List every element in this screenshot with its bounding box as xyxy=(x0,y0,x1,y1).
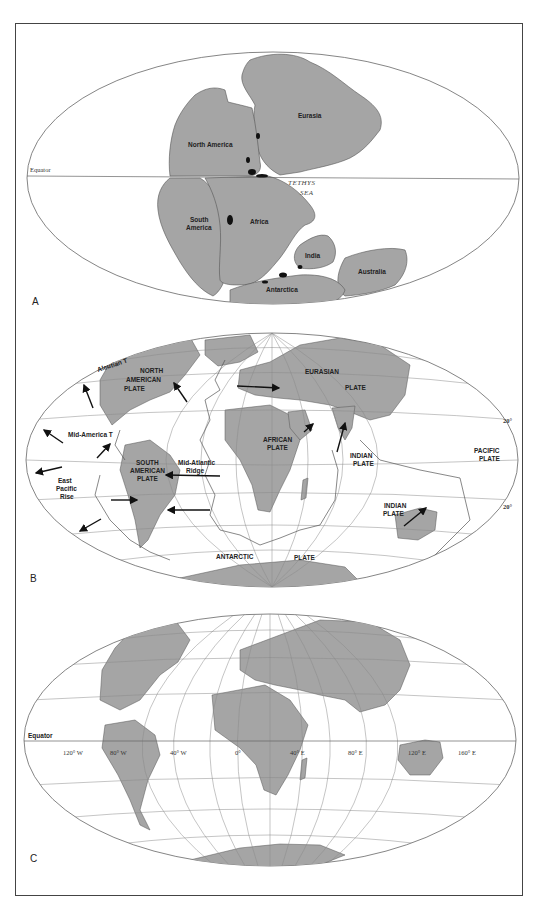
label-south-american-plate-2: AMERICAN xyxy=(130,467,165,474)
label-antarctic-plate-2: PLATE xyxy=(294,554,315,561)
label-indian-plate-1: INDIAN xyxy=(350,452,373,459)
label-east-pacific-2: Pacific xyxy=(56,485,77,492)
label-antarctica: Antarctica xyxy=(266,286,298,293)
equator-label-a: Equator xyxy=(30,166,51,173)
label-australia: Australia xyxy=(358,268,386,275)
label-latitude-20s: 20° xyxy=(503,503,513,510)
label-pacific-plate-2: PLATE xyxy=(479,455,500,462)
longitude-label: 80° W xyxy=(110,749,128,756)
label-eurasia: Eurasia xyxy=(298,112,322,119)
label-african-plate-1: AFRICAN xyxy=(263,436,293,443)
label-india: India xyxy=(305,252,321,259)
label-north-america: North America xyxy=(188,141,233,148)
label-eurasian-plate-1: EURASIAN xyxy=(305,368,339,375)
equator-label-c: Equator xyxy=(28,732,53,740)
label-latitude-20n: 20° xyxy=(503,417,513,424)
tethys-sea-label-line2: SEA xyxy=(300,189,314,197)
longitude-label: 160° E xyxy=(458,749,476,756)
label-south-american-plate-3: PLATE xyxy=(137,475,158,482)
label-eurasian-plate-2: PLATE xyxy=(345,384,366,391)
longitude-label: 0° xyxy=(235,749,241,756)
label-africa: Africa xyxy=(250,218,269,225)
tethys-sea-label-line1: TETHYS xyxy=(288,179,316,187)
label-antarctic-plate-1: ANTARCTIC xyxy=(216,553,254,560)
label-north-american-plate-3: PLATE xyxy=(124,385,145,392)
label-north-american-plate-2: AMERICAN xyxy=(126,376,161,383)
longitude-label: 120° W xyxy=(63,749,84,756)
panel-letter-a: A xyxy=(32,296,39,307)
panel-letter-b: B xyxy=(30,573,37,584)
label-mid-atlantic-1: Mid-Atlantic xyxy=(178,459,216,466)
longitude-label: 120° E xyxy=(408,749,426,756)
label-indian-plate-aus-2: PLATE xyxy=(383,510,404,517)
label-mid-atlantic-2: Ridge xyxy=(186,467,204,475)
label-mid-america-trench: Mid-America T xyxy=(68,431,113,438)
longitude-label: 80° E xyxy=(348,749,363,756)
longitude-label: 40° E xyxy=(290,749,305,756)
label-south-america-line2: America xyxy=(186,224,212,231)
label-indian-plate-aus-1: INDIAN xyxy=(384,502,407,509)
label-north-american-plate-1: NORTH xyxy=(140,367,163,374)
panel-letter-c: C xyxy=(30,853,37,864)
label-pacific-plate-1: PACIFIC xyxy=(474,447,500,454)
label-south-america-line1: South xyxy=(190,216,208,223)
panel-a-pangaea-map: Equator TETHYS SEA North America Eurasia… xyxy=(27,52,519,308)
panel-c-present-day-map: Equator 120° W 80° W 40° W 0° 40° E 80° … xyxy=(24,614,516,867)
label-east-pacific-1: East xyxy=(58,477,73,484)
plate-tectonics-figure: Equator TETHYS SEA North America Eurasia… xyxy=(0,0,539,907)
longitude-label: 40° W xyxy=(170,749,188,756)
label-indian-plate-2: PLATE xyxy=(353,460,374,467)
label-african-plate-2: PLATE xyxy=(267,444,288,451)
label-east-pacific-3: Rise xyxy=(60,493,74,500)
arrow-w-mid-atlantic-1 xyxy=(166,475,220,476)
figure-caption xyxy=(150,896,410,904)
label-south-american-plate-1: SOUTH xyxy=(136,459,159,466)
panel-b-plates-map: Aleutian T NORTH AMERICAN PLATE Mid-Amer… xyxy=(26,333,518,590)
